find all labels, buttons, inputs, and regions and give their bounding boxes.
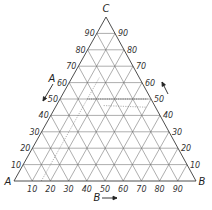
vertex-label-b: B bbox=[199, 176, 206, 187]
tick-label-c: 90 bbox=[118, 29, 128, 38]
axis-arrows: AB bbox=[43, 73, 168, 203]
arrow-c-icon-head bbox=[162, 82, 165, 86]
gridline-a bbox=[97, 33, 178, 181]
guide-line bbox=[41, 78, 99, 181]
tick-label-b: 80 bbox=[155, 185, 165, 194]
vertex-label-a: A bbox=[4, 176, 12, 187]
gridline-b bbox=[69, 66, 133, 181]
vertex-labels: ABC bbox=[4, 3, 206, 187]
tick-label-c: 30 bbox=[172, 128, 182, 137]
tick-label-c: 80 bbox=[127, 46, 137, 55]
tick-label-b: 70 bbox=[136, 185, 146, 194]
gridline-a bbox=[60, 99, 105, 181]
tick-label-a: 40 bbox=[39, 111, 49, 120]
tick-label-b: 40 bbox=[82, 185, 92, 194]
tick-label-c: 50 bbox=[154, 95, 164, 104]
grid-lines bbox=[23, 33, 187, 181]
vertex-label-c: C bbox=[103, 3, 110, 14]
tick-label-b: 50 bbox=[100, 185, 110, 194]
tick-label-c: 10 bbox=[190, 161, 200, 170]
tick-label-b: 10 bbox=[27, 185, 37, 194]
tick-label-b: 20 bbox=[45, 185, 55, 194]
gridline-b bbox=[141, 132, 169, 181]
tick-label-a: 10 bbox=[11, 161, 21, 170]
tick-label-a: 60 bbox=[57, 79, 67, 88]
gridline-a bbox=[78, 66, 141, 181]
axis-label-a: A bbox=[48, 73, 56, 84]
ternary-svg: 1020304050607080909080706050403020101020… bbox=[0, 0, 212, 210]
tick-label-c: 70 bbox=[136, 62, 146, 71]
tick-label-b: 60 bbox=[118, 185, 128, 194]
gridline-b bbox=[178, 165, 187, 181]
tick-label-a: 50 bbox=[48, 95, 58, 104]
tick-label-b: 30 bbox=[64, 185, 74, 194]
gridline-a bbox=[23, 165, 32, 181]
axis-label-b: B bbox=[94, 192, 101, 203]
tick-label-b: 90 bbox=[173, 185, 183, 194]
tick-label-c: 20 bbox=[181, 144, 191, 153]
tick-label-a: 30 bbox=[29, 128, 39, 137]
tick-label-c: 60 bbox=[145, 79, 155, 88]
gridline-b bbox=[105, 99, 151, 181]
tick-label-a: 80 bbox=[75, 46, 85, 55]
ternary-diagram: 1020304050607080909080706050403020101020… bbox=[0, 0, 212, 210]
tick-label-a: 70 bbox=[66, 62, 76, 71]
tick-label-a: 90 bbox=[85, 29, 95, 38]
tick-label-a: 20 bbox=[20, 144, 30, 153]
gridline-a bbox=[42, 132, 69, 181]
arrow-a-icon-head bbox=[43, 97, 47, 101]
arrow-b-icon-head bbox=[113, 196, 117, 200]
tick-label-c: 40 bbox=[163, 111, 173, 120]
gridline-b bbox=[32, 33, 115, 181]
tick-labels: 1020304050607080909080706050403020101020… bbox=[11, 29, 200, 194]
